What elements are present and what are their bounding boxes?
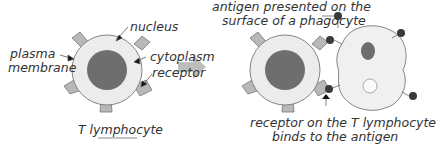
label-t-lymphocyte: T lymphocyte <box>78 123 163 137</box>
label-antigen-2: surface of a phagocyte <box>222 14 366 28</box>
label-receptor: receptor <box>152 66 205 80</box>
phagocyte <box>337 26 406 111</box>
label-binds-2: binds to the antigen <box>272 130 398 144</box>
label-binds-1: receptor on the T lymphocyte <box>250 116 436 130</box>
left-nucleus <box>87 50 127 90</box>
label-plasma: plasma <box>10 47 55 61</box>
label-nucleus: nucleus <box>130 20 178 34</box>
label-cytoplasm: cytoplasm <box>150 50 215 64</box>
label-antigen-1: antigen presented on the <box>212 0 371 14</box>
label-membrane: membrane <box>8 61 76 75</box>
